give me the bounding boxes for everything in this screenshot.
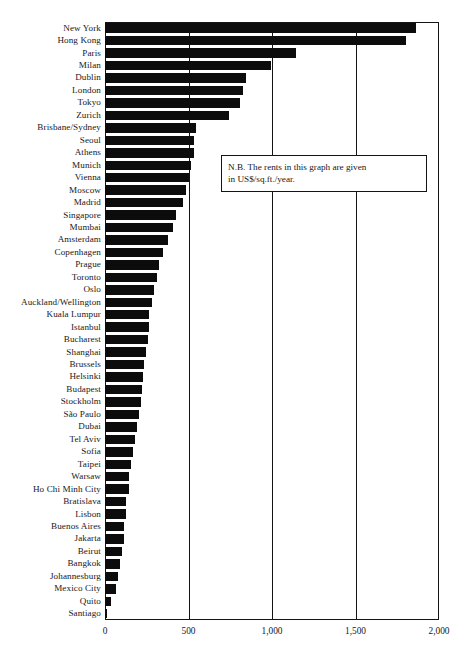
category-label: Tel Aviv: [0, 435, 101, 444]
bar: [105, 210, 176, 219]
bar: [105, 298, 152, 307]
bar: [105, 422, 137, 431]
bar: [105, 522, 124, 531]
bar: [105, 111, 229, 120]
bar: [105, 584, 116, 593]
bars-layer: [105, 22, 439, 620]
bar: [105, 397, 141, 406]
bar: [105, 460, 131, 469]
x-tick-label: 1,000: [261, 626, 282, 636]
bar: [105, 248, 163, 257]
bar: [105, 310, 149, 319]
category-label: Auckland/Wellington: [0, 298, 101, 307]
category-label: Warsaw: [0, 472, 101, 481]
bar: [105, 173, 189, 182]
category-label: Istanbul: [0, 323, 101, 332]
bar: [105, 61, 271, 70]
category-label: Seoul: [0, 136, 101, 145]
category-label: Lisbon: [0, 510, 101, 519]
x-tick-label: 2,000: [428, 626, 449, 636]
category-label: Bucharest: [0, 335, 101, 344]
category-label: Prague: [0, 260, 101, 269]
bar: [105, 285, 154, 294]
bar: [105, 410, 139, 419]
bar: [105, 161, 191, 170]
bar: [105, 484, 129, 493]
bar: [105, 86, 243, 95]
bar: [105, 198, 183, 207]
category-label: Santiago: [0, 609, 101, 618]
bar: [105, 559, 120, 568]
bar: [105, 509, 126, 518]
bar: [105, 73, 246, 82]
bar: [105, 123, 196, 132]
category-label: London: [0, 86, 101, 95]
bar: [105, 148, 194, 157]
category-label: Johannesburg: [0, 572, 101, 581]
bar: [105, 472, 129, 481]
category-label: Sofia: [0, 447, 101, 456]
category-label: Helsinki: [0, 372, 101, 381]
category-label: Ho Chi Minh City: [0, 485, 101, 494]
category-label: Mexico City: [0, 584, 101, 593]
bar: [105, 98, 240, 107]
category-label: Athens: [0, 148, 101, 157]
category-label: Taipei: [0, 460, 101, 469]
category-label: Madrid: [0, 198, 101, 207]
category-label: Oslo: [0, 285, 101, 294]
category-label: Singapore: [0, 211, 101, 220]
bar: [105, 547, 122, 556]
category-label: Mumbai: [0, 223, 101, 232]
category-labels-layer: New YorkHong KongParisMilanDublinLondonT…: [0, 22, 101, 620]
x-axis-layer: 05001,0001,5002,000: [0, 620, 463, 644]
bar: [105, 23, 416, 32]
category-label: Milan: [0, 61, 101, 70]
bar: [105, 609, 107, 618]
x-tick-label: 0: [103, 626, 108, 636]
category-label: Paris: [0, 49, 101, 58]
category-label: Amsterdam: [0, 235, 101, 244]
category-label: Dubai: [0, 422, 101, 431]
category-label: Copenhagen: [0, 248, 101, 257]
x-tick-label: 1,500: [345, 626, 366, 636]
bar: [105, 497, 126, 506]
bar: [105, 273, 157, 282]
category-label: Moscow: [0, 186, 101, 195]
units-note-box: N.B. The rents in this graph are given i…: [221, 155, 427, 192]
bar: [105, 136, 194, 145]
category-label: Jakarta: [0, 534, 101, 543]
category-label: Stockholm: [0, 397, 101, 406]
category-label: Zurich: [0, 111, 101, 120]
units-note-line-1: N.B. The rents in this graph are given: [228, 161, 420, 173]
bar: [105, 572, 118, 581]
bar: [105, 360, 144, 369]
bar: [105, 48, 296, 57]
category-label: Toronto: [0, 273, 101, 282]
x-tick-label: 500: [181, 626, 195, 636]
category-label: New York: [0, 24, 101, 33]
bar: [105, 235, 168, 244]
bar: [105, 260, 159, 269]
category-label: Quito: [0, 597, 101, 606]
category-label: Dublin: [0, 73, 101, 82]
category-label: Shanghai: [0, 348, 101, 357]
bar: [105, 372, 143, 381]
category-label: Munich: [0, 161, 101, 170]
category-label: Brisbane/Sydney: [0, 123, 101, 132]
category-label: Beirut: [0, 547, 101, 556]
category-label: Brussels: [0, 360, 101, 369]
category-label: Buenos Aires: [0, 522, 101, 531]
bar: [105, 347, 146, 356]
category-label: Kuala Lumpur: [0, 310, 101, 319]
bar: [105, 223, 173, 232]
bar: [105, 597, 111, 606]
category-label: Bangkok: [0, 559, 101, 568]
category-label: Tokyo: [0, 98, 101, 107]
bar: [105, 534, 124, 543]
bar: [105, 335, 148, 344]
category-label: Bratislava: [0, 497, 101, 506]
city-office-rents-bar-chart: New YorkHong KongParisMilanDublinLondonT…: [0, 0, 463, 657]
units-note-line-2: in US$/sq.ft./year.: [228, 173, 420, 185]
category-label: Vienna: [0, 173, 101, 182]
category-label: São Paulo: [0, 410, 101, 419]
